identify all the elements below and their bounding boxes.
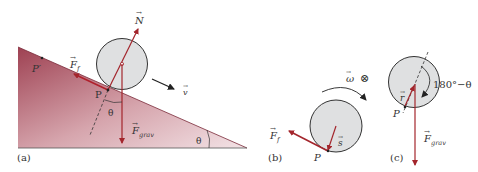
normal-force-label: N → — [134, 9, 145, 26]
angular-velocity-arc — [322, 88, 366, 101]
angle-theta-base: θ — [196, 136, 201, 146]
svg-text:→: → — [270, 125, 276, 133]
position-s-label: s → — [338, 133, 343, 148]
point-p-prime-label: P′ — [31, 63, 42, 74]
svg-text:f: f — [76, 65, 81, 73]
contact-point-label-a: P — [95, 89, 102, 100]
contact-point-p-a — [107, 89, 110, 92]
svg-text:f: f — [276, 136, 281, 144]
contact-point-label-b: P — [313, 152, 321, 163]
gravity-label-c: F grav → — [423, 128, 446, 147]
contact-point-label-c: P — [392, 108, 400, 119]
angle-label-c: 180°−θ — [433, 79, 472, 90]
angle-theta-contact: θ — [108, 108, 113, 118]
panel-c: 180°−θ r → F grav → P (c) — [389, 52, 472, 165]
svg-text:v: v — [183, 88, 188, 97]
svg-text:→: → — [346, 68, 351, 75]
contact-point-p-b — [327, 150, 329, 152]
into-page-symbol: ⊗ — [360, 72, 369, 85]
velocity-arrow — [152, 79, 174, 89]
velocity-label: v → — [183, 82, 188, 97]
panel-label-a: (a) — [17, 152, 31, 163]
angular-velocity-label: ω → — [346, 68, 354, 84]
panel-b: ω → ⊗ s → F f → P (b) — [268, 68, 369, 163]
svg-text:grav: grav — [431, 139, 446, 147]
friction-label-b: F f → — [269, 125, 281, 144]
point-p-prime-marker — [41, 57, 44, 60]
svg-text:grav: grav — [139, 131, 154, 139]
svg-text:→: → — [132, 120, 138, 128]
position-r-label: r → — [400, 88, 405, 103]
svg-text:→: → — [424, 128, 430, 136]
svg-text:→: → — [400, 88, 405, 95]
rolling-disk-diagram: P′ F f → N → F grav → P θ — [0, 0, 478, 172]
svg-text:→: → — [136, 9, 142, 17]
panel-a: P′ F f → N → F grav → P θ — [17, 9, 247, 163]
disk-c — [389, 57, 440, 108]
svg-text:→: → — [183, 82, 188, 89]
svg-text:→: → — [70, 54, 76, 62]
panel-label-c: (c) — [390, 152, 404, 163]
panel-label-b: (b) — [268, 152, 282, 163]
contact-point-p-c — [404, 106, 407, 109]
svg-text:→: → — [338, 133, 343, 140]
